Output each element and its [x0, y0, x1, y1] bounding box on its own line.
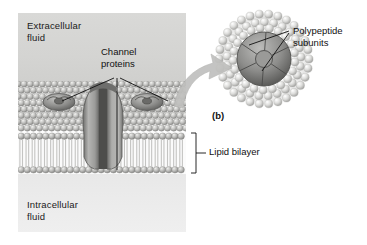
lipid-bilayer-label: Lipid bilayer	[209, 146, 260, 158]
extracellular-fluid-label: Extracellular fluid	[27, 20, 81, 43]
channel-proteins-label: Channel proteins	[101, 46, 136, 69]
channel-protein-transmembrane	[80, 73, 126, 177]
central-pore	[256, 51, 273, 68]
figure-canvas: Extracellular fluid Intracellular fluid	[0, 0, 367, 245]
channel-protein-left	[42, 90, 76, 112]
channel-protein-right	[130, 90, 164, 112]
intracellular-fluid-label: Intracellular fluid	[27, 199, 78, 222]
channel-protein-inset	[214, 9, 314, 109]
lipid-bilayer-bracket	[191, 133, 206, 173]
polypeptide-subunits-label: Polypeptide subunits	[293, 25, 343, 48]
panel-letter-label: (b)	[212, 110, 224, 122]
